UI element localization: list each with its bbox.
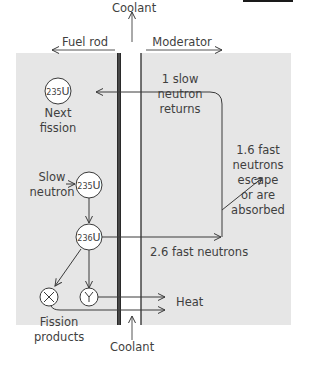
u236-to-x-arrow [55,249,81,286]
coolant-top-label: Coolant [112,1,152,16]
coolant-bottom-label: Coolant [110,340,154,355]
fast-escape-label: 1.6 fast neutrons escape or are absorbed [228,143,288,218]
fuel-rod-label: Fuel rod [60,35,110,50]
heat-label: Heat [176,295,206,310]
moderator-label: Moderator [150,35,214,50]
coolant-channel [121,53,141,325]
slow-neutron-label: Slow neutron [28,170,76,200]
next-fission-label: Next fission [38,106,78,136]
next-fission-node-text: 235U [46,84,70,100]
slow-returns-label: 1 slow neutron returns [152,72,208,117]
fission-products-label: Fission products [34,315,84,345]
u235-node-text: 235U [77,178,101,194]
heat-arrow-x [51,306,165,310]
fast-neutrons-label: 2.6 fast neutrons [150,245,250,260]
u236-node-text: 236U [77,230,101,246]
